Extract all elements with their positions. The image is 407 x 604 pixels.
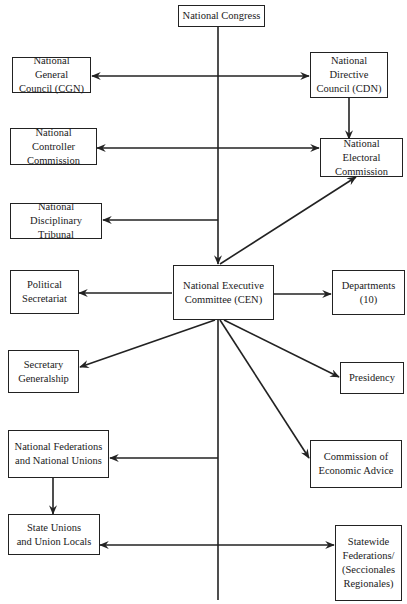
node-label: National Federations and National Unions <box>15 440 103 468</box>
node-state-unions: State Unions and Union Locals <box>8 514 100 555</box>
node-label: National Electoral Commission <box>324 137 399 179</box>
node-label: National Directive Council (CDN) <box>314 54 384 96</box>
node-label: State Unions and Union Locals <box>17 521 92 549</box>
node-label: National Congress <box>183 9 261 23</box>
node-national-electoral-commission: National Electoral Commission <box>320 138 403 177</box>
node-label: Commission of Economic Advice <box>319 450 394 478</box>
node-national-controller-commission: National Controller Commission <box>10 128 97 165</box>
node-commission-economic-advice: Commission of Economic Advice <box>310 440 402 488</box>
node-national-executive-committee: National Executive Committee (CEN) <box>173 265 274 320</box>
node-national-congress: National Congress <box>178 5 265 27</box>
node-label: Secretary Generalship <box>18 358 69 386</box>
node-statewide-federations: Statewide Federations/ (Seccionales Regi… <box>335 525 402 601</box>
node-label: Departments (10) <box>342 279 396 307</box>
node-political-secretariat: Political Secretariat <box>10 270 79 314</box>
node-label: Political Secretariat <box>22 278 67 306</box>
node-secretary-generalship: Secretary Generalship <box>8 350 79 393</box>
node-label: Statewide Federations/ (Seccionales Regi… <box>342 535 395 591</box>
node-national-disciplinary-tribunal: National Disciplinary Tribunal <box>10 203 102 239</box>
node-presidency: Presidency <box>340 362 404 394</box>
node-label: National General Council (CGN) <box>16 54 87 96</box>
node-label: National Executive Committee (CEN) <box>183 279 264 307</box>
node-departments: Departments (10) <box>332 270 405 315</box>
node-national-general-council: National General Council (CGN) <box>12 57 91 93</box>
node-label: Presidency <box>349 371 395 385</box>
node-national-federations: National Federations and National Unions <box>8 430 109 478</box>
node-label: National Controller Commission <box>14 126 93 168</box>
node-national-directive-council: National Directive Council (CDN) <box>310 52 388 98</box>
node-label: National Disciplinary Tribunal <box>14 200 98 242</box>
